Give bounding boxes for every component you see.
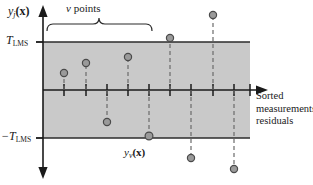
data-point[interactable] <box>230 165 237 172</box>
nu-points-label: ν points <box>66 2 101 14</box>
lower-threshold-base: −T <box>1 129 16 143</box>
data-point[interactable] <box>166 34 173 41</box>
data-point[interactable] <box>209 11 216 18</box>
x-axis-caption-line-2: measurements <box>256 103 313 116</box>
upper-threshold-label: TLMS <box>6 33 28 48</box>
data-point[interactable] <box>60 69 67 76</box>
y-nu-point-label: yν(x) <box>124 146 145 160</box>
x-axis-caption-line-3: residuals <box>256 115 313 128</box>
data-point[interactable] <box>82 59 89 66</box>
x-axis-caption-line-1: Sorted <box>256 90 313 103</box>
nu-points-text: points <box>71 2 101 14</box>
y-axis-arrow-up-icon <box>38 5 47 17</box>
y-axis-label-arg: (x) <box>16 4 30 18</box>
data-point[interactable] <box>103 118 110 125</box>
figure-canvas: yj(x) ν points TLMS −TLMS yν(x) Sorted m… <box>0 0 313 185</box>
data-point[interactable] <box>124 53 131 60</box>
nu-points-brace <box>47 18 152 31</box>
lower-threshold-label: −TLMS <box>1 129 31 144</box>
y-nu-arg: (x) <box>132 146 145 158</box>
data-point-y-nu[interactable] <box>145 132 153 140</box>
data-point[interactable] <box>187 154 194 161</box>
lower-threshold-subscript: LMS <box>16 135 31 144</box>
upper-threshold-subscript: LMS <box>13 39 28 48</box>
upper-threshold-base: T <box>6 33 13 47</box>
y-axis-label: yj(x) <box>8 4 30 19</box>
y-axis-arrow-down-icon <box>38 167 47 179</box>
x-axis-caption: Sorted measurements residuals <box>256 90 313 128</box>
